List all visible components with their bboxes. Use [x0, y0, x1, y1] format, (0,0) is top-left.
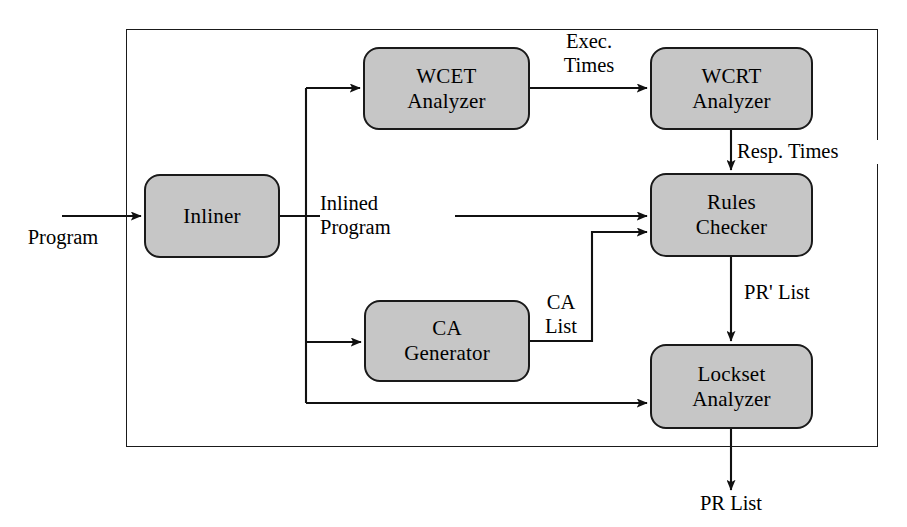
node-lockset-analyzer-line2: Analyzer [692, 387, 771, 412]
node-ca-generator-line1: CA [432, 316, 462, 341]
label-pr-list: PR List [676, 492, 786, 516]
node-wcrt-analyzer[interactable]: WCRT Analyzer [650, 47, 813, 130]
node-rules-checker[interactable]: Rules Checker [650, 173, 813, 257]
node-rules-checker-line1: Rules [707, 190, 756, 215]
node-ca-generator[interactable]: CA Generator [364, 300, 530, 382]
label-exec-times: Exec. Times [530, 30, 648, 77]
diagram-canvas: Inliner WCET Analyzer WCRT Analyzer Rule… [0, 0, 907, 527]
label-ca-list-line2: List [545, 315, 577, 337]
node-inliner-line1: Inliner [183, 204, 240, 229]
label-resp-times-line1: Resp. Times [737, 140, 838, 162]
label-pr-list-line1: PR List [700, 492, 762, 514]
label-ca-list: CA List [532, 291, 590, 338]
node-wcet-analyzer-line2: Analyzer [407, 89, 486, 114]
node-wcrt-analyzer-line2: Analyzer [692, 89, 771, 114]
node-lockset-analyzer-line1: Lockset [698, 362, 766, 387]
node-rules-checker-line2: Checker [696, 215, 767, 240]
node-lockset-analyzer[interactable]: Lockset Analyzer [650, 344, 813, 429]
label-exec-times-line2: Times [564, 54, 615, 76]
node-wcet-analyzer-line1: WCET [416, 64, 476, 89]
node-wcrt-analyzer-line1: WCRT [701, 64, 761, 89]
label-inlined-program-line1: Inlined [320, 192, 378, 214]
label-program: Program [8, 226, 118, 250]
label-ca-list-line1: CA [547, 291, 575, 313]
label-inlined-program-line2: Program [320, 216, 391, 238]
label-program-line1: Program [28, 226, 99, 248]
node-ca-generator-line2: Generator [404, 341, 490, 366]
label-pr-prime-list: PR' List [744, 281, 854, 305]
node-wcet-analyzer[interactable]: WCET Analyzer [363, 47, 530, 130]
label-exec-times-line1: Exec. [566, 30, 612, 52]
label-resp-times: Resp. Times [737, 140, 887, 164]
label-inlined-program: Inlined Program [320, 192, 455, 239]
label-pr-prime-list-line1: PR' List [744, 281, 810, 303]
node-inliner[interactable]: Inliner [144, 174, 280, 258]
